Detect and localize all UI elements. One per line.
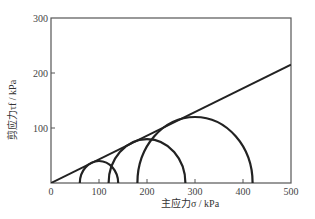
y-tick-label: 100 bbox=[33, 123, 48, 134]
mohr-circle-3 bbox=[137, 117, 252, 183]
x-axis-ticks: 0100200300400500 bbox=[49, 179, 299, 197]
mohr-circle-chart: 0100200300400500 100200300 主应力σ / kPa 剪应… bbox=[0, 0, 315, 219]
y-axis-ticks: 100200300 bbox=[33, 13, 55, 134]
x-tick-label: 100 bbox=[92, 186, 107, 197]
x-axis-label: 主应力σ / kPa bbox=[161, 197, 220, 209]
plot-frame bbox=[51, 18, 291, 183]
x-tick-label: 0 bbox=[49, 186, 54, 197]
plot-area bbox=[51, 18, 291, 183]
x-tick-label: 200 bbox=[140, 186, 155, 197]
y-tick-label: 200 bbox=[33, 68, 48, 79]
y-axis-label: 剪应力τf / kPa bbox=[6, 79, 18, 140]
x-tick-label: 300 bbox=[188, 186, 203, 197]
x-tick-label: 500 bbox=[284, 186, 299, 197]
x-tick-label: 400 bbox=[236, 186, 251, 197]
y-tick-label: 300 bbox=[33, 13, 48, 24]
